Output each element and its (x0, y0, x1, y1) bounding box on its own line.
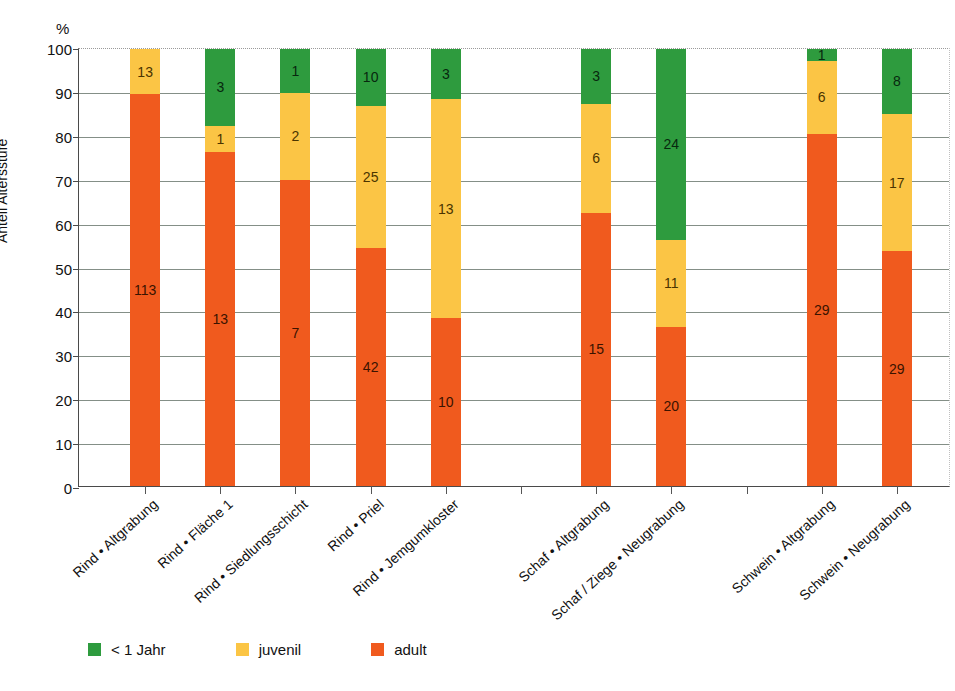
bar-segment[interactable]: 3 (205, 49, 235, 126)
legend-item[interactable]: < 1 Jahr (88, 641, 166, 658)
bar-segment-value: 3 (216, 80, 224, 94)
bar-segment-value: 11 (664, 276, 679, 290)
bar-segment[interactable]: 29 (882, 251, 912, 486)
bar-segment[interactable]: 1 (205, 126, 235, 152)
bar-segment-value: 17 (889, 176, 905, 190)
bar-segment[interactable]: 10 (431, 318, 461, 486)
bar-column[interactable]: 2961 (807, 49, 837, 486)
bar-column[interactable]: 201124 (656, 49, 686, 486)
y-tick-label: 90 (55, 84, 72, 101)
bar-segment-value: 24 (664, 137, 680, 151)
bar-segment-value: 3 (442, 67, 450, 81)
legend-swatch-icon (371, 643, 384, 656)
bar-segment[interactable]: 6 (807, 61, 837, 134)
bar-segment-value: 6 (818, 90, 826, 104)
y-axis-unit-label: % (56, 20, 69, 37)
bar-segment[interactable]: 13 (130, 49, 160, 94)
bar-segment-value: 10 (438, 395, 454, 409)
bar-segment-value: 13 (137, 65, 153, 79)
y-tick-label: 100 (47, 41, 72, 58)
legend-label: < 1 Jahr (111, 641, 166, 658)
bar-segment[interactable]: 3 (431, 49, 461, 99)
x-tick-mark (897, 486, 898, 494)
y-tick-label: 10 (55, 436, 72, 453)
y-tick-label: 80 (55, 128, 72, 145)
x-axis-label: Rind • Fläche 1 (155, 496, 236, 572)
legend-item[interactable]: juvenil (236, 641, 302, 658)
bar-segment[interactable]: 10 (356, 49, 386, 106)
bar-column[interactable]: 422510 (356, 49, 386, 486)
bar-segment-value: 15 (588, 342, 604, 356)
bar-segment-value: 13 (438, 202, 454, 216)
y-tick-label: 60 (55, 216, 72, 233)
bar-segment-value: 1 (818, 48, 826, 62)
x-tick-mark (596, 486, 597, 494)
bar-column[interactable]: 1563 (581, 49, 611, 486)
y-tick-mark (73, 356, 79, 357)
y-tick-label: 50 (55, 260, 72, 277)
chart-legend: < 1 Jahrjuveniladult (88, 641, 427, 658)
bar-column[interactable]: 29178 (882, 49, 912, 486)
y-tick-mark (73, 444, 79, 445)
bar-segment-value: 2 (292, 129, 300, 143)
bar-segment[interactable]: 3 (581, 49, 611, 104)
x-tick-mark (446, 486, 447, 494)
y-tick-mark (73, 312, 79, 313)
legend-swatch-icon (236, 643, 249, 656)
bar-segment-value: 113 (134, 283, 156, 297)
bar-segment-value: 6 (592, 151, 600, 165)
bar-column[interactable]: 1313 (205, 49, 235, 486)
bar-segment[interactable]: 20 (656, 327, 686, 486)
bar-segment[interactable]: 8 (882, 49, 912, 114)
bar-segment[interactable]: 29 (807, 134, 837, 486)
x-tick-mark (220, 486, 221, 494)
bar-segment[interactable]: 42 (356, 248, 386, 486)
x-tick-mark (145, 486, 146, 494)
bar-segment-value: 8 (893, 74, 901, 88)
x-tick-mark (371, 486, 372, 494)
bar-segment[interactable]: 17 (882, 114, 912, 252)
bar-segment-value: 42 (363, 360, 379, 374)
bar-segment[interactable]: 24 (656, 49, 686, 240)
bar-segment-value: 1 (216, 132, 224, 146)
bar-column[interactable]: 10133 (431, 49, 461, 486)
y-tick-mark (73, 269, 79, 270)
legend-item[interactable]: adult (371, 641, 427, 658)
x-axis-label: Rind • Altgrabung (70, 496, 161, 580)
bar-segment[interactable]: 13 (205, 152, 235, 486)
x-tick-mark (747, 486, 748, 494)
bar-segment-value: 3 (592, 69, 600, 83)
bar-segment[interactable]: 6 (581, 104, 611, 213)
y-tick-label: 20 (55, 392, 72, 409)
x-axis-label: Schaf / Ziege • Neugrabung (548, 496, 687, 623)
bar-segment[interactable]: 1 (807, 49, 837, 61)
bar-segment-value: 25 (363, 170, 379, 184)
x-axis-label: Rind • Priel (324, 496, 386, 554)
y-tick-mark (73, 400, 79, 401)
bar-column[interactable]: 11313 (130, 49, 160, 486)
bar-segment[interactable]: 1 (280, 49, 310, 93)
bar-segment[interactable]: 2 (280, 93, 310, 180)
bar-segment-value: 10 (363, 70, 379, 84)
bar-segment-value: 20 (664, 399, 680, 413)
legend-label: juvenil (259, 641, 302, 658)
bar-segment[interactable]: 15 (581, 213, 611, 486)
y-tick-label: 30 (55, 348, 72, 365)
bar-column[interactable]: 721 (280, 49, 310, 486)
stacked-bar-chart: % Anteil Altersstufe 0102030405060708090… (0, 0, 955, 691)
bar-segment[interactable]: 13 (431, 99, 461, 318)
x-tick-mark (671, 486, 672, 494)
x-tick-mark (295, 486, 296, 494)
plot-area: 0102030405060708090100113131313721422510… (78, 48, 950, 487)
bar-segment[interactable]: 11 (656, 240, 686, 327)
bar-segment-value: 7 (292, 326, 300, 340)
y-axis-title: Anteil Altersstufe (0, 139, 10, 243)
bar-segment[interactable]: 113 (130, 94, 160, 486)
y-tick-label: 40 (55, 304, 72, 321)
y-tick-mark (73, 225, 79, 226)
y-tick-mark (73, 137, 79, 138)
legend-swatch-icon (88, 643, 101, 656)
bar-segment[interactable]: 25 (356, 106, 386, 248)
y-tick-mark (73, 93, 79, 94)
bar-segment[interactable]: 7 (280, 180, 310, 486)
